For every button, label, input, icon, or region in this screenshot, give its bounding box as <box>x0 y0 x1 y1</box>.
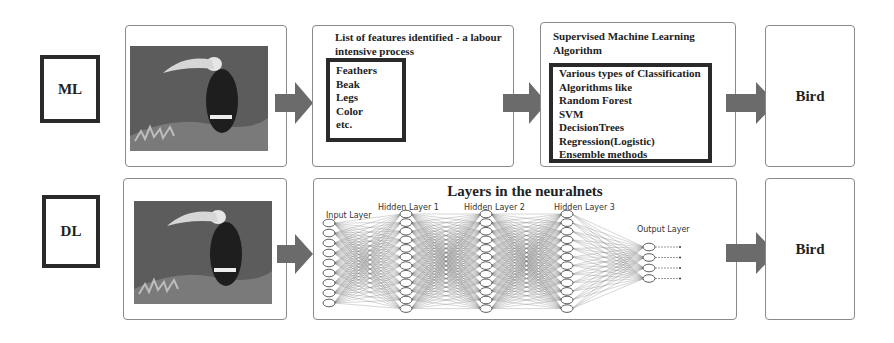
algorithm-heading: Supervised Machine Learning Algorithm <box>553 29 733 57</box>
algorithm-item: Various types of Classification <box>559 67 702 81</box>
algorithm-item: Random Forest <box>559 94 702 108</box>
neural-network-panel: Layers in the neuralnets Input Layer Hid… <box>313 178 737 320</box>
algorithm-item: Ensemble methods <box>559 148 702 162</box>
dl-label-box: DL <box>42 195 100 268</box>
ml-output-panel: Bird <box>765 25 855 167</box>
arrow-right-icon <box>277 234 313 274</box>
algorithm-item: DecisionTrees <box>559 121 702 135</box>
ml-label: ML <box>58 81 82 98</box>
ml-label-box: ML <box>40 55 100 123</box>
feature-item: Feathers <box>336 64 396 78</box>
dl-label: DL <box>61 223 82 240</box>
algorithm-item: SVM <box>559 108 702 122</box>
algorithm-panel: Supervised Machine Learning Algorithm Va… <box>540 22 736 167</box>
toucan-illustration-icon <box>134 201 272 304</box>
features-panel: List of features identified - a labour i… <box>312 25 514 167</box>
dl-output-panel: Bird <box>765 178 855 320</box>
toucan-image <box>130 46 268 151</box>
arrow-right-icon <box>275 82 313 124</box>
feature-item: Color <box>336 105 396 119</box>
algorithm-item: Algorithms like <box>559 81 702 95</box>
algorithm-list: Various types of Classification Algorith… <box>549 63 712 163</box>
dl-image-panel <box>123 178 287 320</box>
ml-image-panel <box>125 25 287 167</box>
neural-network-graph <box>314 179 738 321</box>
toucan-illustration-icon <box>130 46 268 151</box>
features-heading: List of features identified - a labour i… <box>335 30 510 58</box>
toucan-image <box>134 201 272 304</box>
feature-item: Legs <box>336 91 396 105</box>
algorithm-item: Regression(Logistic) <box>559 135 702 149</box>
ml-output-label: Bird <box>795 88 824 105</box>
features-list: Feathers Beak Legs Color etc. <box>326 58 406 142</box>
dl-output-label: Bird <box>795 241 824 258</box>
feature-item: Beak <box>336 78 396 92</box>
feature-item: etc. <box>336 118 396 132</box>
